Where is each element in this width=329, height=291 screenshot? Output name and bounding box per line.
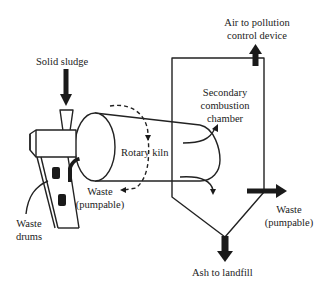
label-ash-to-landfill: Ash to landfill xyxy=(192,266,253,279)
secondary-line-1: Secondary xyxy=(197,86,253,99)
flow-arrowhead-lower xyxy=(210,189,216,195)
rotation-arrowhead-top xyxy=(145,135,151,141)
label-waste-pumpable-left: Waste (pumpable) xyxy=(74,185,126,211)
waste-right-line-1: Waste xyxy=(262,203,316,216)
feeder-box xyxy=(30,130,76,157)
waste-drum-icon xyxy=(52,167,66,206)
waste-left-line-2: (pumpable) xyxy=(74,198,126,211)
waste-left-line-1: Waste xyxy=(74,185,126,198)
label-rotary-kiln: Rotary kiln xyxy=(121,146,169,159)
waste-pumpable-arrow-right xyxy=(247,184,287,198)
waste-right-line-2: (pumpable) xyxy=(262,216,316,229)
air-line-1: Air to pollution xyxy=(210,16,304,29)
waste-drums-line-2: drums xyxy=(12,230,46,243)
label-waste-pumpable-right: Waste (pumpable) xyxy=(262,203,316,229)
ash-outlet-arrow xyxy=(217,236,233,262)
label-air-to-pollution: Air to pollution control device xyxy=(210,16,304,42)
label-solid-sludge: Solid sludge xyxy=(36,55,88,68)
secondary-line-2: combustion xyxy=(197,99,253,112)
label-secondary-combustion: Secondary combustion chamber xyxy=(197,86,253,125)
air-line-2: control device xyxy=(210,29,304,42)
solid-sludge-arrow xyxy=(60,69,72,106)
pumpable-waste-pipe xyxy=(68,157,80,182)
waste-drums-line-1: Waste xyxy=(12,217,46,230)
air-outlet-arrow xyxy=(249,44,262,66)
secondary-line-3: chamber xyxy=(197,112,253,125)
feed-hopper xyxy=(60,110,73,131)
label-waste-drums: Waste drums xyxy=(12,217,46,243)
